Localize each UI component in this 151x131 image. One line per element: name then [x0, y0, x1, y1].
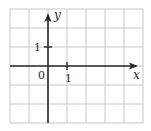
origin-label: 0: [38, 69, 45, 82]
y-tick-label: 1: [34, 41, 41, 54]
coordinate-plane: x y 0 1 1: [0, 0, 151, 131]
x-tick-label: 1: [65, 72, 72, 85]
y-axis-label: y: [53, 8, 61, 22]
x-axis-label: x: [133, 68, 140, 82]
